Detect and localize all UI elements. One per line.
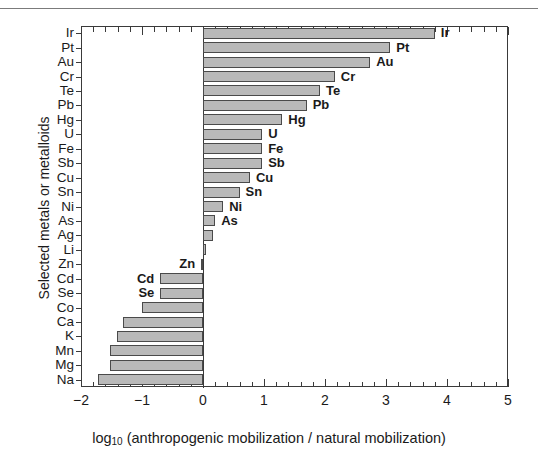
bar-label-fe: Fe [268,143,283,154]
y-tick-label-mn: Mn [0,343,74,358]
y-tick [76,207,81,208]
x-tick [81,27,82,35]
bar-cd [160,273,203,284]
x-tick [252,382,253,387]
x-tick-label: 1 [244,392,284,408]
bar-u [203,129,262,140]
y-tick [76,351,81,352]
bar-cr [203,71,335,82]
bar-label-cu: Cu [256,172,273,183]
x-tick-label: 0 [183,392,223,408]
x-tick [508,379,509,387]
bar-label-pt: Pt [396,42,409,53]
bar-ir [203,28,435,39]
y-tick [76,149,81,150]
bar-li [203,244,206,255]
bar-fe [203,143,262,154]
y-tick [76,91,81,92]
x-tick [179,27,180,32]
x-tick-label: 4 [427,392,467,408]
y-tick-label-mg: Mg [0,357,74,372]
x-tick [93,27,94,32]
bar-label-sn: Sn [246,186,263,197]
x-tick [484,382,485,387]
x-tick [496,382,497,387]
x-tick [471,27,472,32]
x-tick [215,382,216,387]
x-tick [166,27,167,32]
x-tick-label: 3 [366,392,406,408]
x-tick [81,379,82,387]
y-tick [76,48,81,49]
bar-sn [203,187,240,198]
y-tick [76,308,81,309]
y-tick [76,221,81,222]
bar-se [160,288,203,299]
y-tick [76,77,81,78]
bar-label-zn: Zn [167,258,195,269]
bar-label-se: Se [126,287,154,298]
x-tick [93,382,94,387]
x-tick [447,379,448,387]
y-tick [76,163,81,164]
y-tick [76,62,81,63]
y-tick-label-pt: Pt [0,40,74,55]
x-tick [142,27,143,35]
x-tick [264,379,265,387]
bar-mg [110,360,203,371]
x-tick [191,27,192,32]
x-tick [240,382,241,387]
bar-co [142,302,203,313]
y-tick [76,235,81,236]
chart-figure: −2−1012345 IrPtAuCrTePbHgUFeSbCuSnNiAsAg… [0,0,538,462]
y-tick [76,279,81,280]
x-tick [386,379,387,387]
bar-sb [203,158,262,169]
x-tick [301,382,302,387]
bar-zn [201,259,203,270]
x-tick [423,382,424,387]
bar-ca [123,317,203,328]
bar-as [203,215,215,226]
bar-label-as: As [221,215,238,226]
bar-mn [110,345,203,356]
y-tick [76,380,81,381]
x-axis-title-rest: (anthropogenic mobilization / natural mo… [123,430,446,446]
x-tick [203,379,204,387]
y-tick [76,336,81,337]
x-tick [130,27,131,32]
x-tick [362,382,363,387]
x-tick-label: 2 [305,392,345,408]
bar-ag [203,230,213,241]
bar-te [203,85,320,96]
x-tick [508,27,509,35]
y-tick [76,264,81,265]
x-axis-title-sub: 10 [112,436,123,447]
y-tick [76,322,81,323]
x-tick [374,382,375,387]
bar-label-pb: Pb [313,99,330,110]
x-tick [105,27,106,32]
x-tick [288,382,289,387]
x-tick [276,382,277,387]
bar-pt [203,42,390,53]
bar-label-sb: Sb [268,157,285,168]
x-tick-label: −1 [122,392,162,408]
x-axis-title: log10 (anthropogenic mobilization / natu… [0,430,538,447]
y-tick-label-au: Au [0,54,74,69]
x-tick [484,27,485,32]
x-tick [313,382,314,387]
y-tick-label-ir: Ir [0,25,74,40]
x-tick-label: −2 [61,392,101,408]
bar-label-hg: Hg [288,114,305,125]
x-tick [227,382,228,387]
y-tick [76,250,81,251]
x-tick [435,382,436,387]
y-tick [76,33,81,34]
x-tick-label: 5 [488,392,528,408]
y-tick [76,192,81,193]
x-tick [435,27,436,32]
x-tick [410,382,411,387]
x-tick [398,382,399,387]
bar-label-ir: Ir [441,27,450,38]
